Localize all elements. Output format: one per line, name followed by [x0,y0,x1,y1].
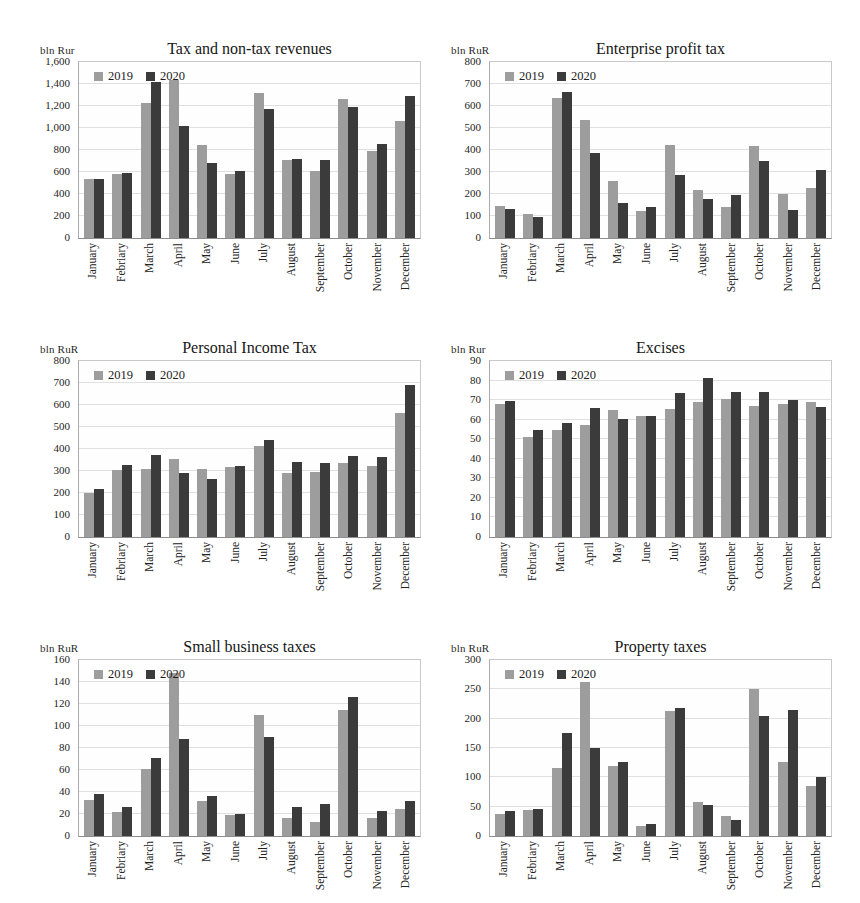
bar-2020-june [235,171,245,238]
chart-header: bln RurExcises [445,333,832,357]
y-axis: 0102030405060708090 [445,360,489,536]
legend-label-2019: 2019 [108,369,133,382]
bar-2020-october [759,392,769,537]
bar-2020-november [788,400,798,537]
x-axis-label-may: May [612,841,624,862]
bar-2020-august [292,462,302,537]
legend-swatch-2019 [94,72,103,81]
bar-2019-august [693,802,703,836]
chart-body: 010020030040050060070080020192020 [34,360,421,538]
bar-2019-september [310,171,320,238]
x-axis-label-march: March [144,542,156,572]
y-axis-tick: 30 [470,472,481,483]
bar-group-june [221,660,249,836]
x-axis-label-august: August [697,542,709,575]
bar-2019-november [367,151,377,238]
legend-item-2020: 2020 [557,70,596,83]
y-axis-tick: 90 [470,355,481,366]
bar-2019-december [806,402,816,537]
y-axis-tick: 150 [465,742,482,753]
x-axis-cell: July [250,239,278,317]
bar-group-january [80,361,108,537]
y-axis-tick: 100 [465,771,482,782]
x-axis-label-august: August [697,243,709,276]
x-axis-label-may: May [201,542,213,563]
bar-group-august [278,660,306,836]
bar-2020-july [264,109,274,238]
bar-group-november [774,62,802,238]
bar-2020-may [618,762,628,836]
legend-label-2020: 2020 [160,70,185,83]
y-axis-tick: 10 [470,511,481,522]
x-axis-cell: July [661,837,689,903]
bar-2019-december [395,809,405,837]
x-axis-cells: JanuaryFebriaryMarchAprilMayJuneJulyAugu… [78,239,421,317]
bar-2019-april [580,425,590,537]
bar-2019-june [225,815,235,836]
bar-group-july [250,660,278,836]
bar-2019-april [169,673,179,836]
bar-group-april [165,660,193,836]
x-axis-cell: Febriary [107,239,135,317]
bar-2020-march [151,455,161,537]
bar-2020-september [731,392,741,537]
x-axis-cell: April [164,538,192,616]
bar-group-march [137,62,165,238]
bar-2019-november [367,466,377,538]
x-axis-label-july: July [669,542,681,561]
bar-group-april [576,660,604,836]
bar-group-october [745,660,773,836]
bar-2020-november [377,144,387,238]
x-axis-label-july: July [258,542,270,561]
legend-item-2019: 2019 [505,70,544,83]
bar-groups [490,62,831,238]
x-axis-cell: March [136,239,164,317]
bar-2020-november [377,811,387,836]
bar-2020-august [703,378,713,537]
bar-group-december [391,660,419,836]
bar-group-january [80,660,108,836]
y-axis-tick: 700 [54,377,71,388]
bar-2020-may [207,796,217,836]
chart-small-business-taxes: bln RuRSmall business taxes0204060801001… [34,632,421,903]
x-axis-cell: October [335,538,363,616]
x-axis-label-may: May [612,542,624,563]
x-axis-cell: June [221,837,249,903]
bar-2019-june [636,826,646,836]
bar-2019-july [254,446,264,537]
legend: 20192020 [505,70,596,83]
x-axis-label-april: April [173,542,185,566]
legend-item-2019: 2019 [94,70,133,83]
legend-swatch-2019 [94,670,103,679]
bar-group-september [717,361,745,537]
y-axis-tick: 400 [54,443,71,454]
x-axis-label-april: April [584,243,596,267]
y-axis-tick: 300 [465,166,482,177]
x-axis-label-september: September [726,542,738,591]
bar-2019-july [665,145,675,239]
legend-swatch-2019 [505,371,514,380]
bar-2020-december [405,96,415,238]
x-axis-cell: June [221,239,249,317]
bar-group-april [165,361,193,537]
x-axis-label-june: June [230,243,242,264]
chart-header: bln RuRSmall business taxes [34,632,421,656]
x-axis-label-october: October [343,542,355,579]
bar-group-august [278,62,306,238]
y-axis-tick: 300 [465,654,482,665]
y-axis-tick: 40 [470,452,481,463]
x-axis-cell: July [250,837,278,903]
y-axis-tick: 0 [476,830,482,841]
x-axis-label-july: July [669,243,681,262]
bar-group-may [193,660,221,836]
bar-2019-october [338,463,348,537]
x-axis-spacer [34,239,78,317]
y-axis-tick: 160 [54,654,71,665]
bar-2020-febriary [533,217,543,238]
bar-2020-march [562,423,572,537]
y-axis-tick: 250 [465,683,482,694]
bar-group-febriary [108,361,136,537]
x-axis-cell: April [575,538,603,616]
chart-title: Property taxes [489,638,832,656]
x-axis-cell: August [278,239,306,317]
